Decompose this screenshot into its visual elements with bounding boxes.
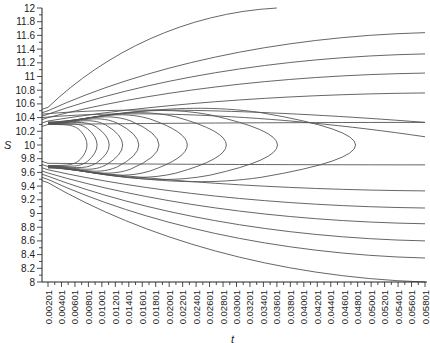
y-tick-label: 10.6 [16,98,36,109]
x-tick-label: 0.02001 [164,290,175,324]
upper-contour [42,73,425,120]
x-axis: 0.002010.004010.006010.008010.010010.012… [42,282,430,324]
y-tick-label: 11.2 [16,57,35,68]
x-tick-label: 0.00401 [56,290,67,324]
y-tick-label: 8.4 [21,249,35,260]
x-tick-label: 0.02401 [191,290,202,324]
x-tick-label: 0.01201 [110,290,121,324]
y-tick-label: 8.6 [21,235,35,246]
x-tick-label: 0.05201 [379,290,390,324]
y-tick-label: 10.4 [16,112,36,123]
y-tick-label: 11.6 [16,30,35,41]
x-tick-label: 0.00601 [69,290,80,324]
y-axis: 88.28.48.68.899.29.49.69.81010.210.410.6… [16,3,42,288]
y-tick-label: 9.4 [21,181,35,192]
x-tick-label: 0.05401 [393,290,404,324]
x-tick-label: 0.03001 [231,290,242,324]
x-tick-label: 0.02801 [218,290,229,324]
lower-contour [42,177,425,258]
x-tick-label: 0.05801 [420,290,430,324]
closed-contour [48,124,97,166]
x-tick-label: 0.02601 [204,290,215,324]
x-tick-label: 0.05001 [366,290,377,324]
x-tick-label: 0.03801 [285,290,296,324]
y-tick-label: 11.8 [16,16,35,27]
lower-contour [42,161,425,165]
x-tick-label: 0.03401 [258,290,269,324]
y-tick-label: 9.2 [21,194,35,205]
x-tick-label: 0.04401 [325,290,336,324]
x-tick-label: 0.00801 [83,290,94,324]
y-tick-label: 9.8 [21,153,35,164]
closed-contour [48,125,87,166]
x-tick-label: 0.01801 [150,290,161,324]
y-tick-label: 9.6 [21,167,35,178]
x-tick-label: 0.01401 [123,290,134,324]
x-tick-label: 0.04601 [339,290,350,324]
x-tick-label: 0.03201 [244,290,255,324]
y-tick-label: 12 [24,3,36,14]
upper-contour [42,8,277,109]
x-tick-label: 0.01001 [96,290,107,324]
x-tick-label: 0.04201 [312,290,323,324]
lower-contour [42,181,425,282]
closed-contour [48,121,123,170]
y-tick-label: 8.8 [21,222,35,233]
lower-contour [42,171,425,224]
x-axis-label: t [231,333,235,343]
y-tick-label: 10.2 [16,126,36,137]
x-tick-label: 0.02201 [177,290,188,324]
contour-chart: 88.28.48.68.899.29.49.69.81010.210.410.6… [0,0,430,343]
x-tick-label: 0.05601 [406,290,417,324]
x-tick-label: 0.01601 [137,290,148,324]
y-axis-label: S [4,139,12,151]
y-tick-label: 8.2 [21,263,35,274]
x-tick-label: 0.00201 [43,290,54,324]
y-tick-label: 11.4 [16,44,35,55]
y-tick-label: 8 [29,277,35,288]
x-tick-label: 0.03601 [271,290,282,324]
x-tick-label: 0.04001 [298,290,309,324]
y-tick-label: 9 [29,208,35,219]
contour-lines [42,8,425,282]
upper-contour [42,122,425,126]
y-tick-label: 10 [24,140,36,151]
y-tick-label: 10.8 [16,85,36,96]
y-tick-label: 11 [25,71,36,82]
x-tick-label: 0.04801 [352,290,363,324]
